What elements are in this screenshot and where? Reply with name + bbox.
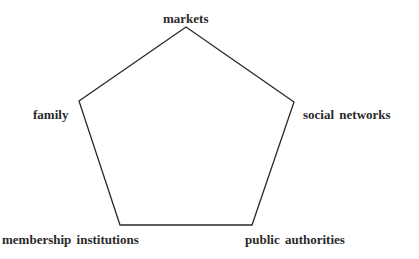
label-public-authorities: public authorities: [245, 233, 345, 246]
pentagon-outline: [79, 27, 294, 225]
pentagon-shape: [0, 0, 419, 259]
label-membership-institutions: membership institutions: [2, 233, 139, 246]
label-markets: markets: [163, 12, 209, 25]
pentagon-diagram: markets social networks public authoriti…: [0, 0, 419, 259]
label-social-networks: social networks: [303, 108, 391, 121]
label-family: family: [33, 108, 68, 121]
